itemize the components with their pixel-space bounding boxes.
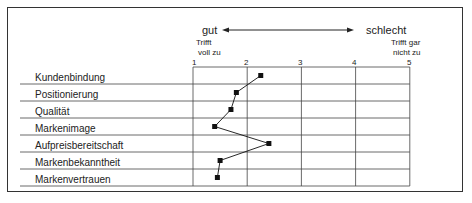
- profile-chart: [0, 0, 472, 203]
